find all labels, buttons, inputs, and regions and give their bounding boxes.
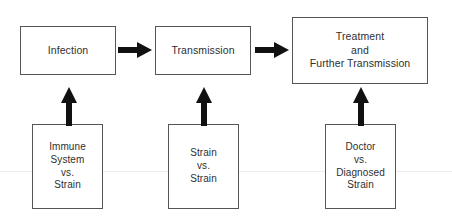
node-strain-vs-strain[interactable]: Strain vs. Strain xyxy=(168,124,239,209)
arrow-up-icon-immune-to-infection xyxy=(59,86,79,126)
node-transmission-label: Transmission xyxy=(171,44,234,57)
node-doctor-vs-strain-label: Doctor vs. Diagnosed Strain xyxy=(336,141,385,192)
arrow-right-icon-infection-to-transmission xyxy=(118,40,152,60)
node-transmission[interactable]: Transmission xyxy=(155,26,251,75)
arrow-up-icon-doctor-to-treatment xyxy=(351,86,371,126)
node-infection-label: Infection xyxy=(48,44,89,57)
node-immune-system-vs-strain[interactable]: Immune System vs. Strain xyxy=(32,124,103,209)
node-treatment-and-further-transmission[interactable]: Treatment and Further Transmission xyxy=(292,17,428,84)
node-immune-vs-strain-label: Immune System vs. Strain xyxy=(49,141,86,192)
arrow-up-icon-strain-to-transmission xyxy=(194,86,214,126)
node-treatment-label: Treatment and Further Transmission xyxy=(310,30,411,70)
node-infection[interactable]: Infection xyxy=(20,26,116,75)
arrow-right-icon-transmission-to-treatment xyxy=(255,40,289,60)
node-strain-vs-strain-label: Strain vs. Strain xyxy=(190,147,217,185)
diagram-canvas: Infection Transmission Treatment and Fur… xyxy=(0,0,452,221)
node-doctor-vs-diagnosed-strain[interactable]: Doctor vs. Diagnosed Strain xyxy=(325,124,396,209)
